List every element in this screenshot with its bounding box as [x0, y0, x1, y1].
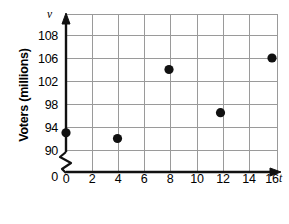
y-axis-arrowhead	[62, 13, 70, 24]
data-point: (16, 106)	[267, 53, 276, 62]
plot-canvas: (0, 93)(4, 92)(8, 104)(12, 96.5)(16, 106…	[0, 0, 289, 224]
grid-lines	[66, 14, 277, 171]
scatter-plot-figure: Voters (millions) 108 106 102 98 94 90 0…	[0, 0, 289, 224]
data-point: (4, 92)	[113, 134, 122, 143]
data-point: (8, 104)	[164, 65, 173, 74]
data-point: (12, 96.5)	[216, 108, 225, 117]
data-point: (0, 93)	[61, 128, 70, 137]
y-axis-break-zigzag	[60, 152, 71, 173]
data-point-series: (0, 93)(4, 92)(8, 104)(12, 96.5)(16, 106…	[61, 53, 276, 143]
x-axis-arrowhead	[270, 168, 281, 176]
